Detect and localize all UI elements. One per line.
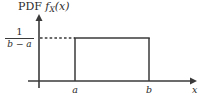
x-tick-label-a: a	[69, 84, 81, 95]
y-axis-value-label: 1 b − a	[3, 27, 36, 49]
uniform-distribution-pdf-figure: PDF fX(x) 1 b − a a b x	[0, 0, 202, 104]
y-axis	[36, 14, 43, 88]
figure-title-argument: (x)	[55, 0, 70, 13]
fraction-denominator: b − a	[3, 40, 36, 49]
x-axis	[28, 77, 197, 84]
x-axis-label: x	[192, 84, 197, 95]
figure-title: PDF fX(x)	[18, 0, 70, 16]
fraction-numerator: 1	[3, 27, 36, 38]
pdf-rectangle-outline	[74, 38, 150, 81]
x-tick-label-b: b	[143, 84, 155, 95]
figure-title-prefix: PDF	[18, 0, 42, 13]
